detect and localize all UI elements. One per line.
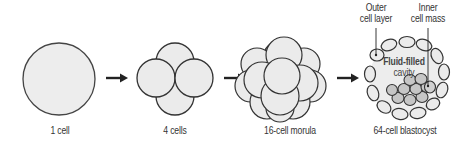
annotation-fluid-filled-cavity: Fluid-filled cavity <box>383 56 425 78</box>
label-blastocyst: 64-cell blastocyst <box>373 124 436 136</box>
embryo-development-diagram: 1 cell 4 cells 16-cell morula 64-cell bl… <box>0 0 468 149</box>
label-four-cells: 4 cells <box>163 124 186 136</box>
arrow-3 <box>337 74 359 83</box>
arrow-1 <box>106 74 128 83</box>
single-cell <box>23 43 95 115</box>
annotation-inner-cell-mass: Inner cell mass <box>411 2 445 24</box>
four-cell-cluster <box>137 43 213 115</box>
label-one-cell: 1 cell <box>50 124 69 136</box>
label-morula: 16-cell morula <box>264 124 316 136</box>
annotation-outer-cell-layer: Outer cell layer <box>360 2 392 24</box>
morula-cluster <box>235 37 326 122</box>
